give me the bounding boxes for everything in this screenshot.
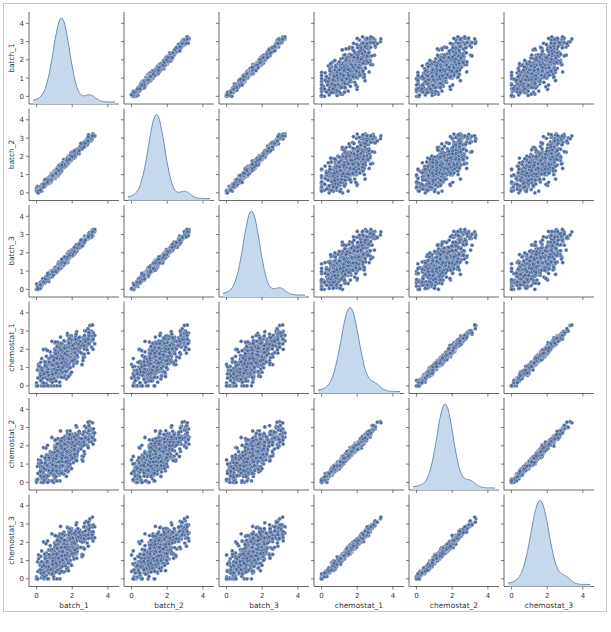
x-tick-label: 4 <box>581 592 586 600</box>
scatter-panel-chemostat_2-vs-batch_2 <box>121 398 214 493</box>
y-tick-label: 3 <box>20 424 24 432</box>
scatter-panel-batch_2-vs-batch_1: 01234batch_2 <box>7 109 119 204</box>
scatter-panel-chemostat_3-vs-chemostat_2: 024chemostat_2 <box>406 495 499 610</box>
y-tick-label: 3 <box>20 521 24 529</box>
x-tick-label: 0 <box>34 592 38 600</box>
scatter-panel-chemostat_1-vs-batch_2 <box>121 302 214 397</box>
y-tick-label: 3 <box>20 231 24 239</box>
y-tick-label: 0 <box>20 189 24 197</box>
scatter-panel-batch_1-vs-chemostat_3 <box>501 12 594 107</box>
x-axis-label: chemostat_1 <box>335 601 384 610</box>
scatter-panel-batch_2-vs-chemostat_3 <box>501 109 594 204</box>
kde-area <box>33 18 115 104</box>
y-tick-label: 0 <box>20 479 24 487</box>
y-tick-label: 1 <box>20 461 24 469</box>
scatter-panel-chemostat_2-vs-chemostat_1 <box>311 398 404 493</box>
y-axis-label: chemostat_1 <box>7 323 16 372</box>
y-axis-label: chemostat_2 <box>7 420 16 469</box>
scatter-panel-batch_1-vs-chemostat_1 <box>311 12 404 107</box>
y-tick-label: 1 <box>20 364 24 372</box>
y-tick-label: 4 <box>20 213 25 221</box>
y-axis-label: batch_2 <box>7 139 16 169</box>
y-tick-label: 3 <box>20 38 24 46</box>
x-tick-label: 4 <box>391 592 396 600</box>
y-tick-label: 4 <box>20 116 25 124</box>
scatter-panel-batch_2-vs-chemostat_2 <box>406 109 499 204</box>
scatter-panel-batch_2-vs-chemostat_1 <box>311 109 404 204</box>
x-tick-label: 4 <box>486 592 491 600</box>
y-tick-label: 3 <box>20 328 24 336</box>
kde-area <box>318 308 400 394</box>
x-tick-label: 0 <box>319 592 323 600</box>
scatter-panel-batch_1-vs-chemostat_2 <box>406 12 499 107</box>
scatter-panel-batch_3-vs-chemostat_2 <box>406 205 499 300</box>
scatter-panel-chemostat_3-vs-batch_3: 024batch_3 <box>216 495 309 610</box>
scatter-panel-batch_3-vs-batch_2 <box>121 205 214 300</box>
y-tick-label: 2 <box>20 153 24 161</box>
y-axis-label: chemostat_3 <box>7 516 16 565</box>
scatter-panel-chemostat_1-vs-chemostat_3 <box>501 302 594 397</box>
y-tick-label: 0 <box>20 575 24 583</box>
y-tick-label: 4 <box>20 20 25 28</box>
scatter-panel-batch_2-vs-batch_3 <box>216 109 309 204</box>
y-tick-label: 1 <box>20 171 24 179</box>
x-tick-label: 4 <box>106 592 111 600</box>
x-tick-label: 2 <box>260 592 264 600</box>
x-tick-label: 2 <box>355 592 359 600</box>
scatter-panel-batch_1-vs-batch_2 <box>121 12 214 107</box>
scatter-panel-batch_3-vs-batch_1: 01234batch_3 <box>7 205 119 300</box>
x-tick-label: 2 <box>545 592 549 600</box>
y-axis-label: batch_3 <box>7 236 16 266</box>
x-tick-label: 4 <box>201 592 206 600</box>
y-tick-label: 4 <box>20 309 25 317</box>
kde-panel-chemostat_1 <box>311 302 404 397</box>
scatter-panel-chemostat_1-vs-chemostat_2 <box>406 302 499 397</box>
y-tick-label: 0 <box>20 286 24 294</box>
x-axis-label: batch_1 <box>59 601 89 610</box>
y-tick-label: 4 <box>20 406 25 414</box>
scatter-panel-chemostat_1-vs-batch_3 <box>216 302 309 397</box>
kde-area <box>508 501 590 587</box>
x-tick-label: 2 <box>450 592 454 600</box>
x-tick-label: 0 <box>509 592 513 600</box>
scatter-panel-chemostat_2-vs-batch_3 <box>216 398 309 493</box>
scatter-panel-batch_3-vs-chemostat_1 <box>311 205 404 300</box>
y-tick-label: 3 <box>20 135 24 143</box>
pairplot-figure: 01234batch_101234batch_201234batch_30123… <box>0 0 611 632</box>
y-tick-label: 2 <box>20 442 24 450</box>
kde-panel-chemostat_3: 024chemostat_3 <box>501 495 594 610</box>
scatter-panel-chemostat_3-vs-batch_1: 01234chemostat_3024batch_1 <box>7 495 119 610</box>
kde-panel-batch_3 <box>216 205 309 300</box>
x-tick-label: 0 <box>224 592 228 600</box>
kde-area <box>128 115 210 201</box>
x-tick-label: 2 <box>165 592 169 600</box>
x-axis-label: batch_2 <box>154 601 184 610</box>
y-tick-label: 2 <box>20 346 24 354</box>
scatter-panel-chemostat_2-vs-chemostat_3 <box>501 398 594 493</box>
x-tick-label: 0 <box>129 592 133 600</box>
y-tick-label: 1 <box>20 268 24 276</box>
kde-area <box>413 404 495 490</box>
x-tick-label: 0 <box>414 592 418 600</box>
x-axis-label: chemostat_3 <box>525 601 574 610</box>
y-tick-label: 4 <box>20 502 25 510</box>
x-axis-label: batch_3 <box>249 601 279 610</box>
scatter-panel-batch_1-vs-batch_3 <box>216 12 309 107</box>
kde-panel-chemostat_2 <box>406 398 499 493</box>
x-axis-label: chemostat_2 <box>430 601 479 610</box>
scatter-panel-chemostat_3-vs-batch_2: 024batch_2 <box>121 495 214 610</box>
x-tick-label: 2 <box>70 592 74 600</box>
scatter-panel-batch_3-vs-chemostat_3 <box>501 205 594 300</box>
scatter-panel-chemostat_3-vs-chemostat_1: 024chemostat_1 <box>311 495 404 610</box>
y-tick-label: 2 <box>20 539 24 547</box>
y-tick-label: 1 <box>20 75 24 83</box>
x-tick-label: 4 <box>296 592 301 600</box>
y-tick-label: 1 <box>20 557 24 565</box>
scatter-panel-chemostat_2-vs-batch_1: 01234chemostat_2 <box>7 398 119 493</box>
y-tick-label: 2 <box>20 249 24 257</box>
kde-panel-batch_2 <box>121 109 214 204</box>
y-axis-label: batch_1 <box>7 43 16 73</box>
kde-panel-batch_1: 01234batch_1 <box>7 12 119 107</box>
scatter-panel-chemostat_1-vs-batch_1: 01234chemostat_1 <box>7 302 119 397</box>
y-tick-label: 0 <box>20 382 24 390</box>
